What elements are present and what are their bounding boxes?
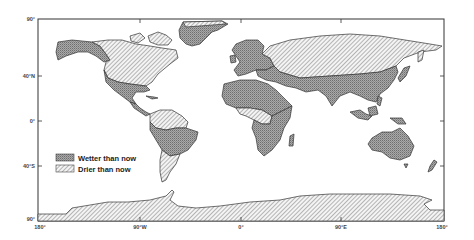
region-kamchatka bbox=[418, 50, 424, 62]
region-arctic-islands-2 bbox=[130, 33, 145, 43]
region-philippines bbox=[377, 96, 382, 106]
lat-label-40n: 40°N bbox=[23, 73, 35, 79]
lon-label-90e: 90°E bbox=[335, 224, 347, 230]
legend-swatch-wetter bbox=[56, 154, 74, 161]
lon-label-0: 0° bbox=[238, 224, 243, 230]
region-canada bbox=[92, 40, 178, 86]
landmasses bbox=[38, 21, 444, 221]
region-tasmania bbox=[404, 164, 408, 168]
lon-label-180w: 180° bbox=[34, 224, 45, 230]
region-caribbean bbox=[146, 96, 158, 99]
world-map: 90° 40°N 0° 40°S 90° 180° 90°W 0° 90°E 1… bbox=[0, 0, 474, 240]
lat-label-0: 0° bbox=[30, 118, 35, 124]
region-central-america bbox=[130, 102, 150, 116]
region-new-zealand bbox=[428, 160, 437, 172]
legend: Wetter than now Drier than now bbox=[56, 154, 136, 174]
region-british-isles bbox=[230, 55, 236, 63]
region-siberia bbox=[262, 34, 442, 78]
lat-label-40s: 40°S bbox=[23, 163, 35, 169]
region-amazon bbox=[150, 110, 188, 130]
lon-label-180e: 180° bbox=[436, 224, 447, 230]
legend-label-drier: Drier than now bbox=[78, 165, 131, 174]
region-new-guinea bbox=[390, 118, 406, 124]
region-madagascar bbox=[289, 134, 294, 146]
legend-swatch-drier bbox=[56, 165, 74, 172]
lon-label-90w: 90°W bbox=[133, 224, 147, 230]
lat-label-90s: 90° bbox=[27, 216, 35, 222]
legend-label-wetter: Wetter than now bbox=[78, 154, 136, 163]
region-borneo bbox=[368, 106, 378, 116]
region-arctic-islands bbox=[148, 32, 172, 45]
region-japan bbox=[398, 66, 410, 82]
region-antarctica bbox=[38, 190, 444, 221]
region-australia bbox=[368, 128, 414, 160]
lat-label-90n: 90° bbox=[27, 16, 35, 22]
